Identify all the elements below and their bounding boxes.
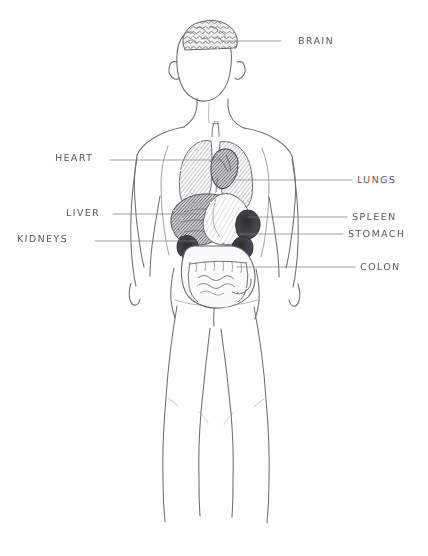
- sketch-canvas: BRAINLUNGSSPLEENSTOMACHCOLONHEARTLIVERKI…: [0, 0, 428, 556]
- label-brain: BRAIN: [298, 35, 335, 46]
- right-hand: [289, 284, 300, 306]
- label-stomach: STOMACH: [348, 228, 406, 239]
- neck-left: [184, 98, 197, 127]
- organ-colon: [181, 246, 255, 308]
- left-knee-mark: [168, 398, 178, 406]
- left-hand: [129, 283, 140, 305]
- left-shoulder: [137, 127, 184, 155]
- torso-left-side: [134, 155, 144, 267]
- organ-spleen: [236, 210, 261, 239]
- right-shoulder: [244, 128, 292, 156]
- left-arm-inner: [150, 196, 160, 276]
- label-colon: COLON: [360, 261, 401, 272]
- label-lungs: LUNGS: [357, 174, 397, 185]
- right-leg-outer: [254, 307, 269, 523]
- label-liver: LIVER: [66, 207, 101, 218]
- right-knee-mark: [254, 399, 264, 407]
- neck-right: [228, 99, 244, 128]
- hip-right: [255, 269, 259, 319]
- label-spleen: SPLEEN: [352, 211, 397, 222]
- right-ear: [235, 62, 245, 80]
- hip-left: [171, 268, 175, 318]
- torso-inner-left: [161, 146, 169, 255]
- organ-brain: [183, 20, 238, 50]
- left-arm-outer: [131, 158, 137, 286]
- neck-center-line: [209, 103, 210, 123]
- right-leg-inner: [221, 329, 233, 517]
- left-leg-outer: [163, 306, 177, 522]
- right-arm-inner: [269, 197, 279, 277]
- torso-inner-right: [261, 148, 269, 257]
- label-kidneys: KIDNEYS: [17, 233, 68, 244]
- left-leg-inner: [199, 328, 210, 516]
- label-heart: HEART: [55, 152, 94, 163]
- anatomy-sketch-svg: [0, 0, 428, 556]
